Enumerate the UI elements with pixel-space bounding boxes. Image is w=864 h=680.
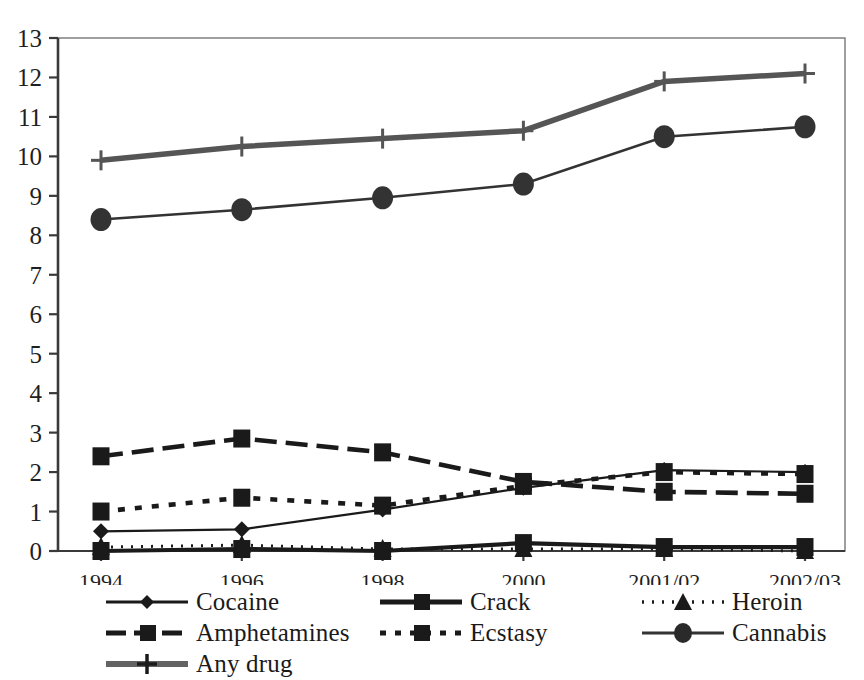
data-point-marker [233,430,250,448]
data-point-marker [513,173,534,196]
legend-item-cannabis[interactable]: Cannabis [640,617,827,648]
series-amphetamines [93,430,814,503]
amphetamines-legend-sample [104,620,190,646]
y-axis-tick-label: 8 [30,222,43,249]
x-axis-tick-label: 1996 [220,569,264,585]
data-point-marker [234,521,250,537]
legend-column-1: Cocaine Amphetamines Any drug [104,586,350,679]
data-point-marker [795,64,815,84]
y-axis-tick-label: 5 [30,341,43,368]
any-drug-legend-sample [104,651,190,677]
x-axis-tick-label: 1998 [361,569,405,585]
data-point-marker [656,483,673,501]
series-line [101,439,805,494]
chart-canvas: 01234567891011121319941996199820002001/0… [0,0,864,585]
ecstasy-legend-sample [378,620,464,646]
y-axis-tick-label: 4 [30,380,43,407]
legend-label-cannabis: Cannabis [726,619,827,647]
legend-label-any-drug: Any drug [190,650,293,678]
y-axis-tick-label: 9 [30,183,43,210]
data-point-marker [93,523,109,539]
y-axis-tick-label: 10 [17,143,42,170]
data-point-marker [91,150,111,170]
y-axis-tick-label: 12 [17,64,42,91]
legend-label-cocaine: Cocaine [190,588,279,616]
data-point-marker [93,503,110,521]
y-axis-tick-label: 13 [17,25,42,52]
x-axis-tick-label: 2000 [501,569,545,585]
series-line [101,543,805,551]
y-axis-tick-label: 1 [30,499,43,526]
legend-label-crack: Crack [464,588,531,616]
data-point-marker [373,129,393,149]
series-cocaine [93,462,813,539]
cannabis-legend-sample [640,620,726,646]
series-line [101,74,805,161]
data-point-marker [93,447,110,465]
data-point-marker [231,198,252,221]
legend-column-3: Heroin Cannabis [640,586,827,648]
x-axis-tick-label: 2001/02 [628,569,700,585]
series-any-drug [91,64,815,171]
heroin-legend-sample [640,589,726,615]
data-point-marker [232,137,252,157]
data-point-marker [233,489,250,507]
legend-item-any-drug[interactable]: Any drug [104,648,350,679]
x-axis-tick-label: 1994 [79,569,123,585]
chart-page: 01234567891011121319941996199820002001/0… [0,0,864,680]
data-point-marker [91,208,112,231]
legend-label-amphetamines: Amphetamines [190,619,350,647]
x-axis-tick-label: 2002/03 [769,569,841,585]
plot-frame [58,38,845,551]
legend-item-ecstasy[interactable]: Ecstasy [378,617,548,648]
y-axis-tick-label: 6 [30,301,43,328]
data-point-marker [374,443,391,461]
y-axis-tick-label: 0 [30,538,43,565]
chart-legend: Cocaine Amphetamines Any drug [0,586,864,680]
y-axis-tick-label: 11 [18,104,42,131]
y-axis-tick-label: 2 [30,459,43,486]
legend-item-heroin[interactable]: Heroin [640,586,827,617]
legend-item-crack[interactable]: Crack [378,586,548,617]
crack-legend-sample [378,589,464,615]
series-crack [93,534,814,560]
cocaine-legend-sample [104,589,190,615]
data-point-marker [654,125,675,148]
line-chart: 01234567891011121319941996199820002001/0… [0,0,864,585]
data-point-marker [372,186,393,209]
series-line [101,127,805,220]
data-point-marker [795,115,816,138]
y-axis-tick-label: 3 [30,420,43,447]
legend-column-2: Crack Ecstasy [378,586,548,648]
legend-label-heroin: Heroin [726,588,803,616]
legend-item-cocaine[interactable]: Cocaine [104,586,350,617]
data-point-marker [654,71,674,91]
data-point-marker [513,121,533,141]
y-axis-tick-label: 7 [30,262,43,289]
legend-item-amphetamines[interactable]: Amphetamines [104,617,350,648]
data-point-marker [797,485,814,503]
legend-label-ecstasy: Ecstasy [464,619,548,647]
